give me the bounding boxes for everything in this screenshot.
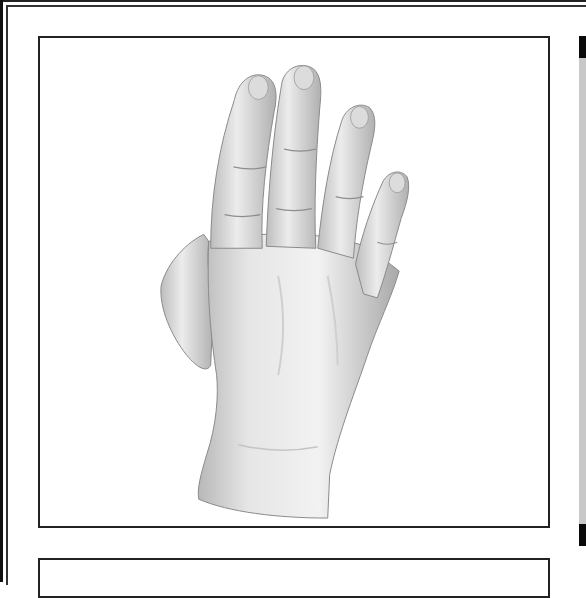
second-panel (38, 558, 550, 598)
vertical-scrollbar[interactable] (579, 36, 586, 546)
hand-model-image: 3D hand model (40, 38, 548, 526)
window-frame-left (0, 0, 3, 582)
image-panel: 3D hand model (38, 36, 550, 528)
window-frame-top (0, 0, 586, 2)
scroll-up-arrow[interactable] (579, 36, 586, 58)
scroll-down-arrow[interactable] (579, 524, 586, 546)
